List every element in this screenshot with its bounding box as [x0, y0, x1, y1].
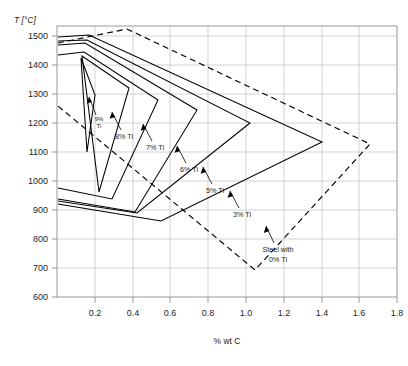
x-tick-1.6: 1.6 [353, 308, 366, 318]
x-tick-0.6: 0.6 [164, 308, 177, 318]
label-9pct-ti-line1: 9% [95, 116, 104, 122]
label-9pct-ti-line2: Ti [97, 123, 102, 129]
x-tick-0.4: 0.4 [127, 308, 140, 318]
label-6pct-ti: 6% Ti [180, 165, 198, 174]
y-tick-1100: 1100 [29, 147, 48, 157]
x-tick-1.8: 1.8 [391, 308, 404, 318]
label-steel-0pct-line2: 0% Ti [269, 255, 287, 264]
x-tick-1.0: 1.0 [240, 308, 253, 318]
label-7pct-ti: 7% Ti [146, 143, 164, 152]
x-tick-1.2: 1.2 [278, 308, 291, 318]
x-tick-0.2: 0.2 [89, 308, 102, 318]
x-axis-title: % wt C [214, 336, 241, 346]
x-tick-1.4: 1.4 [316, 308, 329, 318]
label-3pct-ti: 3% Ti [233, 210, 251, 219]
chart-svg: 1500 1400 1300 1200 1100 1000 900 800 70… [0, 0, 408, 366]
y-tick-1000: 1000 [28, 176, 48, 186]
y-tick-700: 700 [33, 263, 48, 273]
y-tick-1500: 1500 [28, 31, 48, 41]
y-tick-1300: 1300 [28, 89, 48, 99]
phase-diagram-figure: 1500 1400 1300 1200 1100 1000 900 800 70… [0, 0, 408, 366]
y-tick-800: 800 [33, 234, 48, 244]
y-tick-900: 900 [33, 205, 48, 215]
y-tick-600: 600 [33, 292, 48, 302]
label-steel-0pct-line1: Steel with [262, 245, 293, 254]
y-tick-1200: 1200 [28, 118, 48, 128]
label-8pct-ti: 8% Ti [115, 132, 133, 141]
x-tick-0.8: 0.8 [202, 308, 215, 318]
label-5pct-ti: 5% Ti [206, 186, 224, 195]
y-axis-title: T [°C] [14, 15, 36, 25]
y-tick-1400: 1400 [28, 60, 48, 70]
x-tick-labels: 0.2 0.4 0.6 0.8 1.0 1.2 1.4 1.6 1.8 [89, 308, 404, 318]
